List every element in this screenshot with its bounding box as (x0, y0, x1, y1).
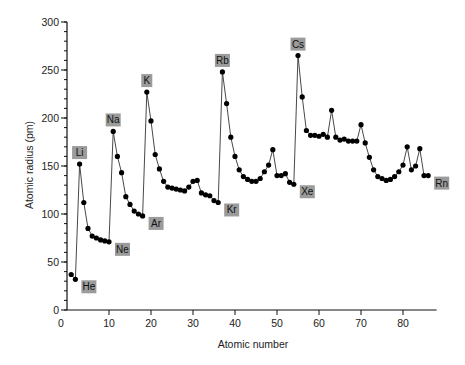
data-point (367, 155, 372, 160)
data-point (186, 185, 191, 190)
y-tick-label: 100 (41, 208, 59, 220)
label-text: Cs (292, 39, 304, 50)
label-text: Ar (151, 218, 162, 229)
data-point (409, 167, 414, 172)
x-tick-label: 80 (397, 317, 409, 329)
data-point (354, 138, 359, 143)
label-text: K (143, 75, 150, 86)
element-label-li: Li (72, 146, 87, 159)
data-point (396, 169, 401, 174)
data-point (161, 179, 166, 184)
label-text: Rn (435, 178, 448, 189)
label-text: Xe (301, 186, 314, 197)
label-text: Kr (227, 204, 238, 215)
data-point (111, 129, 116, 134)
y-tick-label: 150 (41, 160, 59, 172)
axes: 05010015020025030001020304050607080 (41, 16, 436, 329)
y-tick-label: 50 (47, 256, 59, 268)
data-point (132, 209, 137, 214)
data-point (123, 194, 128, 199)
data-point (388, 177, 393, 182)
label-text: He (83, 281, 96, 292)
element-label-xe: Xe (300, 185, 315, 198)
data-point (232, 154, 237, 159)
element-label-he: He (81, 280, 96, 293)
data-point (270, 147, 275, 152)
element-label-ne: Ne (115, 243, 130, 256)
data-point (216, 200, 221, 205)
data-point (321, 132, 326, 137)
data-point (106, 239, 111, 244)
data-point (195, 178, 200, 183)
data-point (266, 162, 271, 167)
x-tick-label: 60 (313, 317, 325, 329)
data-point (77, 161, 82, 166)
data-point (371, 167, 376, 172)
label-text: Ne (116, 244, 129, 255)
data-point (392, 174, 397, 179)
y-axis-title: Atomic radius (pm) (23, 121, 35, 209)
data-point (300, 94, 305, 99)
data-point (304, 128, 309, 133)
data-point (140, 213, 145, 218)
data-point (182, 188, 187, 193)
y-tick-label: 200 (41, 112, 59, 124)
data-point (426, 173, 431, 178)
atomic-radius-chart: 05010015020025030001020304050607080 HeLi… (0, 0, 465, 365)
element-label-na: Na (106, 113, 121, 126)
data-point (148, 118, 153, 123)
y-tick-label: 0 (53, 304, 59, 316)
data-point (127, 202, 132, 207)
data-point (258, 176, 263, 181)
x-axis-title: Atomic number (218, 338, 289, 350)
data-point (400, 162, 405, 167)
element-label-rn: Rn (434, 177, 449, 190)
label-text: Na (107, 114, 120, 125)
element-labels: HeLiNeNaArKKrRbXeCsRn (72, 38, 449, 294)
data-point (291, 182, 296, 187)
x-tick-label: 20 (145, 317, 157, 329)
data-point (417, 146, 422, 151)
data-point (228, 135, 233, 140)
data-point (325, 135, 330, 140)
label-text: Li (76, 147, 84, 158)
x-tick-label: 10 (103, 317, 115, 329)
element-label-rb: Rb (215, 54, 230, 67)
data-point (295, 53, 300, 58)
element-label-kr: Kr (224, 203, 239, 216)
data-point (73, 277, 78, 282)
data-point (237, 167, 242, 172)
data-point (358, 122, 363, 127)
data-point (283, 171, 288, 176)
element-label-k: K (141, 74, 152, 87)
y-tick-label: 300 (41, 16, 59, 28)
data-point (405, 144, 410, 149)
data-point (119, 170, 124, 175)
data-point (224, 101, 229, 106)
data-point (207, 193, 212, 198)
data-point (262, 169, 267, 174)
x-tick-label: 70 (355, 317, 367, 329)
data-point (363, 140, 368, 145)
data-point (329, 108, 334, 113)
x-tick-label: 40 (229, 317, 241, 329)
data-point (69, 272, 74, 277)
data-point (144, 89, 149, 94)
y-tick-label: 250 (41, 64, 59, 76)
data-point (220, 69, 225, 74)
data-point (333, 135, 338, 140)
data-point (413, 163, 418, 168)
x-tick-label: 50 (271, 317, 283, 329)
data-point (241, 174, 246, 179)
element-label-cs: Cs (291, 38, 306, 51)
data-point (157, 166, 162, 171)
data-point (153, 152, 158, 157)
data-point (253, 179, 258, 184)
label-text: Rb (216, 55, 229, 66)
data-point (115, 154, 120, 159)
data-point (85, 226, 90, 231)
element-label-ar: Ar (149, 217, 164, 230)
x-tick-label: 30 (187, 317, 199, 329)
data-point (81, 200, 86, 205)
x-tick-label: 0 (58, 317, 64, 329)
